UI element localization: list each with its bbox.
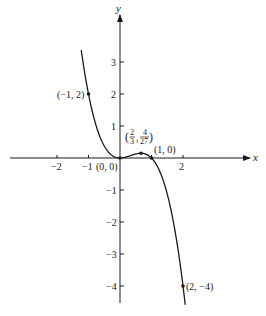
svg-text:(: (: [125, 130, 129, 144]
point-2-neg4: [181, 284, 185, 288]
svg-text:27: 27: [140, 137, 148, 146]
x-axis-label: x: [252, 151, 258, 163]
x-tick-label-neg1: −1: [82, 161, 93, 172]
function-plot: x y −2 −1 2 3 2 1 −1 −2 −3 −4 (−1, 2) (0…: [0, 0, 266, 316]
svg-text:2: 2: [130, 128, 134, 137]
function-curve: [81, 50, 185, 305]
svg-text:3: 3: [130, 137, 134, 146]
x-tick-label-2: 2: [179, 161, 184, 172]
x-tick-label-neg2: −2: [51, 161, 62, 172]
y-tick-label-neg4: −4: [106, 281, 117, 292]
y-axis-label: y: [115, 2, 121, 14]
point-origin: [118, 156, 122, 160]
point-1-0: [150, 156, 154, 160]
y-ticks: [120, 62, 124, 286]
y-tick-label-1: 1: [111, 121, 116, 132]
label-2-neg4: (2, −4): [186, 281, 213, 293]
y-tick-label-neg2: −2: [106, 217, 117, 228]
point-local-max: [139, 152, 143, 156]
label-local-max: ( 2 3 , 4 27 ): [125, 128, 153, 146]
label-neg1-2: (−1, 2): [57, 89, 84, 101]
y-tick-label-3: 3: [111, 57, 116, 68]
svg-text:,: ,: [136, 132, 139, 143]
y-tick-label-neg3: −3: [106, 249, 117, 260]
y-tick-label-neg1: −1: [106, 185, 117, 196]
svg-text:4: 4: [143, 128, 147, 137]
key-points: [87, 92, 185, 288]
label-1-0: (1, 0): [154, 144, 176, 156]
label-origin: (0, 0): [96, 161, 118, 173]
svg-text:): ): [149, 130, 153, 144]
point-neg1-2: [87, 92, 91, 96]
y-tick-label-2: 2: [111, 89, 116, 100]
